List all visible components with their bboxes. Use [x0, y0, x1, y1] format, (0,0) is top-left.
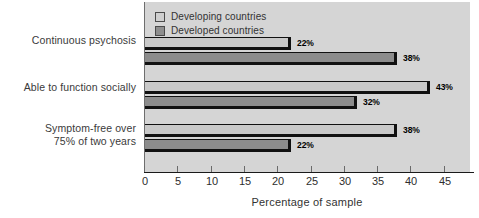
bar-chart-figure: Continuous psychosis Able to function so… — [0, 0, 479, 218]
category-label-line: Symptom-free over — [0, 122, 136, 135]
x-axis-tick — [244, 166, 245, 172]
x-axis-tick — [377, 166, 378, 172]
x-axis-title: Percentage of sample — [144, 196, 470, 208]
x-axis-tick-label: 15 — [239, 175, 251, 187]
x-axis-tick-label: 25 — [306, 175, 318, 187]
category-label-symptom-free: Symptom-free over 75% of two years — [0, 122, 136, 147]
x-axis-tick-labels: 0 5 10 15 20 25 30 35 40 45 — [144, 175, 470, 189]
category-label-continuous-psychosis: Continuous psychosis — [0, 34, 136, 47]
category-label-line: Continuous psychosis — [0, 34, 136, 47]
x-axis-line — [144, 172, 474, 173]
x-axis-tick — [277, 166, 278, 172]
category-label-line: Able to function socially — [0, 81, 136, 94]
x-axis-tick-label: 20 — [272, 175, 284, 187]
x-axis-tick — [344, 166, 345, 172]
x-axis-tick-label: 0 — [142, 175, 148, 187]
x-axis-tick — [177, 166, 178, 172]
x-axis-ticks — [144, 2, 470, 172]
category-label-able-to-function-socially: Able to function socially — [0, 81, 136, 94]
x-axis-tick-label: 30 — [339, 175, 351, 187]
x-axis-tick — [444, 166, 445, 172]
x-axis-tick-label: 35 — [372, 175, 384, 187]
x-axis-tick — [311, 166, 312, 172]
x-axis-tick — [144, 166, 145, 172]
x-axis-tick-label: 10 — [206, 175, 218, 187]
category-axis-labels: Continuous psychosis Able to function so… — [0, 2, 140, 172]
category-label-line: 75% of two years — [0, 135, 136, 148]
x-axis-tick-label: 5 — [175, 175, 181, 187]
x-axis-tick-label: 45 — [439, 175, 451, 187]
x-axis-tick-label: 40 — [405, 175, 417, 187]
x-axis-tick — [211, 166, 212, 172]
x-axis-tick — [410, 166, 411, 172]
